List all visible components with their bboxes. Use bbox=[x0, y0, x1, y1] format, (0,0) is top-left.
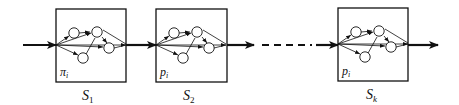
stage-s2: pi S2 bbox=[156, 9, 227, 105]
stage-s2-label: S2 bbox=[183, 88, 195, 105]
stage-s1-label: S1 bbox=[82, 88, 94, 105]
serial-stage-diagram: πi S1 pi S2 pi Sk bbox=[0, 0, 459, 105]
stage-sk: pi Sk bbox=[338, 8, 408, 104]
stage-s1: πi S1 bbox=[56, 9, 126, 105]
stage-sk-label: Sk bbox=[366, 87, 378, 104]
